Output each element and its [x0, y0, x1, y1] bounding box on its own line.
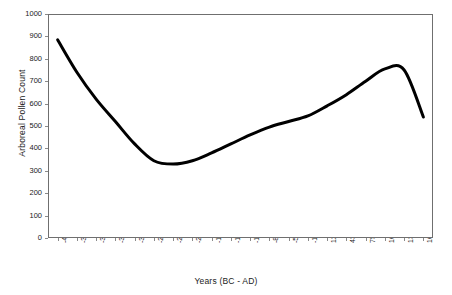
x-tick-mark [289, 238, 290, 241]
y-tick-label: 0 [8, 234, 42, 242]
x-tick-mark [58, 238, 59, 241]
x-tick-mark [385, 238, 386, 241]
y-tick-label: 900 [8, 32, 42, 40]
y-tick-label: 100 [8, 212, 42, 220]
x-tick-mark [327, 238, 328, 241]
x-axis-title: Years (BC - AD) [0, 276, 452, 286]
plot-area [48, 14, 433, 238]
y-tick-label: 800 [8, 55, 42, 63]
x-tick-mark [308, 238, 309, 241]
x-tick-mark [173, 238, 174, 241]
y-tick-label: 700 [8, 77, 42, 85]
pollen-count-line-chart: Arboreal Pollen Count 100090080070060050… [0, 0, 452, 295]
x-tick-mark [231, 238, 232, 241]
x-tick-mark [77, 238, 78, 241]
y-tick-label: 400 [8, 144, 42, 152]
x-tick-mark [154, 238, 155, 241]
x-tick-mark [269, 238, 270, 241]
x-tick-mark [115, 238, 116, 241]
x-tick-mark [404, 238, 405, 241]
x-tick-mark [366, 238, 367, 241]
y-tick-label: 200 [8, 189, 42, 197]
y-tick-mark [45, 238, 48, 239]
x-tick-mark [135, 238, 136, 241]
y-tick-label: 300 [8, 167, 42, 175]
x-tick-mark [192, 238, 193, 241]
x-tick-mark [346, 238, 347, 241]
x-tick-mark [250, 238, 251, 241]
y-tick-label: 600 [8, 100, 42, 108]
x-tick-mark [212, 238, 213, 241]
x-tick-mark [423, 238, 424, 241]
y-tick-label: 1000 [8, 10, 42, 18]
y-tick-label: 500 [8, 122, 42, 130]
x-tick-mark [96, 238, 97, 241]
